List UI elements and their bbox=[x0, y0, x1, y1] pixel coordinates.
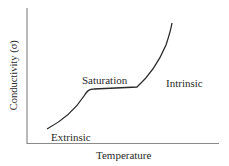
annotation-intrinsic: Intrinsic bbox=[166, 78, 203, 89]
annotation-saturation: Saturation bbox=[82, 75, 127, 86]
y-axis-label: Conductivity (σ) bbox=[9, 35, 20, 115]
x-axis-label: Temperature bbox=[96, 150, 151, 161]
annotation-extrinsic: Extrinsic bbox=[51, 132, 91, 143]
